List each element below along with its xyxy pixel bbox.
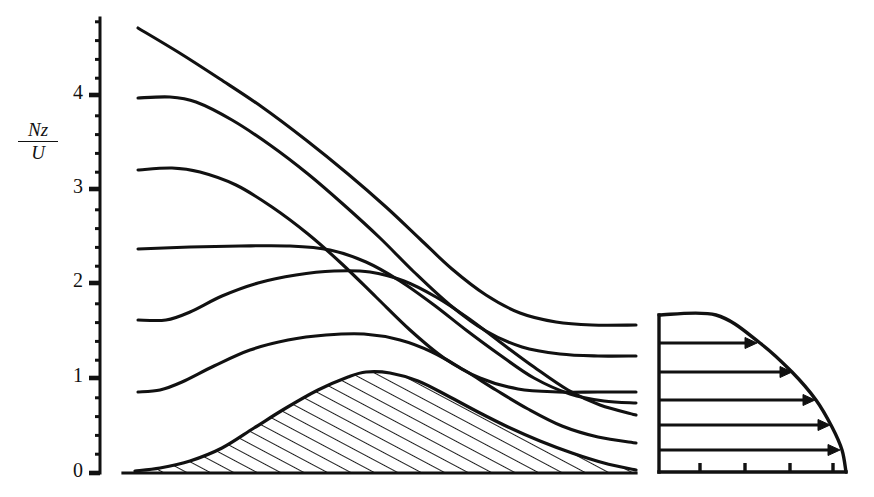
y-axis-tick-label: 0 xyxy=(55,459,83,482)
y-axis-tick-label: 3 xyxy=(55,175,83,198)
y-axis-label-numerator: Nz xyxy=(18,120,58,142)
y-axis-tick-label: 4 xyxy=(55,81,83,104)
y-axis-tick-label: 1 xyxy=(55,364,83,387)
y-axis-tick-label: 2 xyxy=(55,269,83,292)
y-axis-label: Nz U xyxy=(18,120,58,163)
figure-canvas xyxy=(0,0,874,497)
y-axis-label-denominator: U xyxy=(18,142,58,163)
